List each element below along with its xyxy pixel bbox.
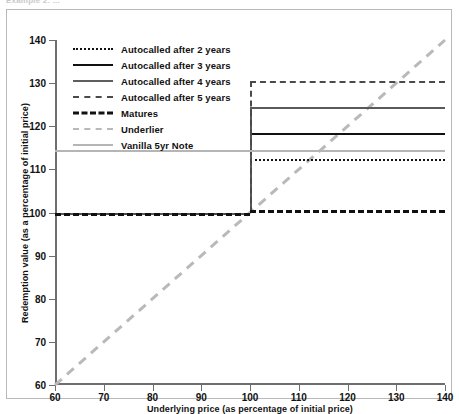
legend-item[interactable]: Autocalled after 4 years bbox=[73, 74, 231, 88]
x-tick bbox=[104, 385, 105, 391]
series-segment-autocalled-after-2-years bbox=[250, 159, 445, 161]
y-tick-label: 130 bbox=[29, 78, 46, 89]
y-tick-label: 80 bbox=[35, 293, 46, 304]
legend-swatch-icon bbox=[73, 75, 113, 87]
series-segment-matures bbox=[250, 210, 445, 213]
legend-swatch-icon bbox=[73, 139, 113, 151]
x-tick-label: 120 bbox=[339, 392, 356, 403]
chart-legend: Autocalled after 2 yearsAutocalled after… bbox=[73, 42, 231, 152]
legend-swatch-icon bbox=[73, 123, 113, 135]
series-segment-matures bbox=[55, 213, 250, 216]
x-tick bbox=[250, 385, 251, 391]
series-segment-autocalled-after-4-years bbox=[250, 107, 445, 109]
x-tick-label: 100 bbox=[242, 392, 259, 403]
legend-item-label: Underlier bbox=[121, 124, 164, 135]
y-tick-label: 140 bbox=[29, 35, 46, 46]
x-tick bbox=[299, 385, 300, 391]
series-segment-autocalled-after-5-years bbox=[250, 81, 252, 213]
legend-item-label: Autocalled after 4 years bbox=[121, 76, 231, 87]
y-tick-label: 110 bbox=[30, 164, 46, 175]
x-tick bbox=[445, 385, 446, 391]
x-axis-title: Underlying price (as percentage of initi… bbox=[55, 404, 445, 414]
legend-item[interactable]: Matures bbox=[73, 106, 231, 120]
legend-item-label: Autocalled after 5 years bbox=[121, 92, 231, 103]
x-tick-label: 140 bbox=[437, 392, 454, 403]
series-segment-autocalled-after-3-years bbox=[250, 133, 445, 135]
x-tick bbox=[396, 385, 397, 391]
x-tick-label: 60 bbox=[49, 392, 60, 403]
legend-item[interactable]: Autocalled after 5 years bbox=[73, 90, 231, 104]
y-tick-label: 60 bbox=[35, 380, 46, 391]
x-tick-label: 110 bbox=[291, 392, 307, 403]
clipped-caption: Example 2: ... bbox=[6, 0, 306, 6]
legend-item-label: Vanilla 5yr Note bbox=[121, 140, 193, 151]
y-tick-label: 100 bbox=[29, 207, 46, 218]
legend-item-label: Autocalled after 2 years bbox=[121, 44, 231, 55]
x-tick bbox=[348, 385, 349, 391]
legend-swatch-icon bbox=[73, 59, 113, 71]
legend-item[interactable]: Autocalled after 2 years bbox=[73, 42, 231, 56]
x-tick bbox=[153, 385, 154, 391]
x-tick-label: 90 bbox=[196, 392, 207, 403]
legend-item[interactable]: Autocalled after 3 years bbox=[73, 58, 231, 72]
chart-frame: Redemption value (as a percentage of ini… bbox=[6, 9, 452, 399]
legend-item-label: Autocalled after 3 years bbox=[121, 60, 231, 71]
legend-swatch-icon bbox=[73, 43, 113, 55]
x-tick-label: 80 bbox=[147, 392, 158, 403]
y-tick-label: 70 bbox=[35, 336, 46, 347]
x-tick-label: 130 bbox=[388, 392, 405, 403]
legend-swatch-icon bbox=[73, 107, 113, 119]
y-tick-label: 90 bbox=[35, 250, 46, 261]
x-tick-label: 70 bbox=[98, 392, 109, 403]
legend-item[interactable]: Vanilla 5yr Note bbox=[73, 138, 231, 152]
series-segment-autocalled-after-5-years bbox=[250, 81, 445, 83]
legend-item[interactable]: Underlier bbox=[73, 122, 231, 136]
legend-item-label: Matures bbox=[121, 108, 158, 119]
legend-swatch-icon bbox=[73, 91, 113, 103]
x-tick bbox=[201, 385, 202, 391]
y-tick-label: 120 bbox=[29, 121, 46, 132]
